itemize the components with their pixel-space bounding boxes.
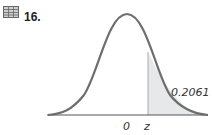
z-label: z — [143, 120, 150, 133]
shaded-tail-region — [148, 52, 208, 115]
zero-label: 0 — [123, 120, 130, 133]
normal-curve — [48, 14, 208, 115]
area-label: 0.2061 — [171, 86, 210, 99]
normal-curve-chart: 0.2061 0 z — [0, 0, 212, 135]
